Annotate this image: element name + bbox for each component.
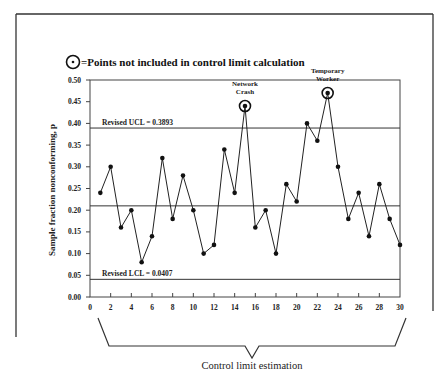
ucl-label: Revised UCL = 0.3893 bbox=[102, 118, 173, 127]
bracket-label: Control limit estimation bbox=[202, 360, 304, 371]
x-tick-label: 30 bbox=[396, 303, 404, 312]
annotation-text: Network bbox=[232, 80, 258, 88]
data-point bbox=[181, 173, 186, 178]
x-tick-label: 28 bbox=[376, 303, 384, 312]
data-point bbox=[222, 147, 227, 152]
data-point bbox=[336, 165, 341, 170]
data-point bbox=[201, 251, 206, 256]
data-point bbox=[284, 182, 289, 187]
y-tick-label: 0.45 bbox=[68, 97, 81, 106]
x-ticks: 024681012141618202224262830 bbox=[88, 293, 404, 312]
legend-text: =Points not included in control limit ca… bbox=[81, 56, 305, 68]
data-point bbox=[119, 225, 124, 230]
data-point bbox=[160, 156, 165, 161]
x-tick-label: 12 bbox=[210, 303, 218, 312]
y-tick-label: 0.10 bbox=[68, 249, 81, 258]
data-point bbox=[367, 234, 372, 239]
annotation-text: Temporary bbox=[311, 67, 345, 75]
data-point bbox=[315, 138, 320, 143]
data-point bbox=[150, 234, 155, 239]
x-tick-label: 20 bbox=[293, 303, 301, 312]
y-tick-label: 0.20 bbox=[68, 206, 81, 215]
data-point bbox=[108, 165, 113, 170]
x-tick-label: 2 bbox=[109, 303, 113, 312]
legend-dot-icon bbox=[72, 61, 75, 64]
data-point bbox=[263, 208, 268, 213]
x-tick-label: 18 bbox=[272, 303, 280, 312]
y-tick-label: 0.00 bbox=[68, 293, 81, 302]
x-tick-label: 4 bbox=[129, 303, 133, 312]
control-chart: =Points not included in control limit ca… bbox=[0, 0, 446, 384]
plot-area bbox=[90, 80, 400, 297]
bracket bbox=[98, 318, 406, 358]
data-point bbox=[232, 191, 237, 196]
series-p bbox=[98, 88, 402, 265]
x-tick-label: 10 bbox=[190, 303, 198, 312]
data-point bbox=[294, 199, 299, 204]
data-point bbox=[129, 208, 134, 213]
data-point bbox=[243, 104, 248, 109]
data-point bbox=[325, 91, 330, 96]
data-point bbox=[346, 217, 351, 222]
x-tick-label: 24 bbox=[334, 303, 342, 312]
data-point bbox=[170, 217, 175, 222]
x-tick-label: 6 bbox=[150, 303, 154, 312]
data-point bbox=[274, 251, 279, 256]
annotation-text: Worker bbox=[316, 75, 339, 83]
y-tick-label: 0.40 bbox=[68, 119, 81, 128]
y-tick-label: 0.05 bbox=[68, 271, 81, 280]
data-point bbox=[387, 217, 392, 222]
x-tick-label: 14 bbox=[231, 303, 239, 312]
x-tick-label: 8 bbox=[171, 303, 175, 312]
y-tick-label: 0.30 bbox=[68, 162, 81, 171]
reference-lines: Revised UCL = 0.3893Revised LCL = 0.0407 bbox=[90, 118, 400, 279]
x-tick-label: 16 bbox=[252, 303, 260, 312]
annotation-text: Crash bbox=[236, 88, 254, 96]
y-tick-label: 0.25 bbox=[68, 184, 81, 193]
x-tick-label: 22 bbox=[314, 303, 322, 312]
y-tick-label: 0.15 bbox=[68, 227, 81, 236]
data-point bbox=[305, 121, 310, 126]
y-ticks: 0.000.050.100.150.200.250.300.350.400.45… bbox=[68, 76, 90, 302]
y-tick-label: 0.35 bbox=[68, 141, 81, 150]
data-point bbox=[191, 208, 196, 213]
data-point bbox=[356, 191, 361, 196]
x-tick-label: 26 bbox=[355, 303, 363, 312]
data-point bbox=[98, 191, 103, 196]
x-tick-label: 0 bbox=[88, 303, 92, 312]
data-point bbox=[139, 260, 144, 265]
y-axis-label: Sample fraction nonconforming, p bbox=[47, 124, 57, 256]
legend: =Points not included in control limit ca… bbox=[67, 56, 305, 69]
data-point bbox=[398, 243, 403, 248]
y-tick-label: 0.50 bbox=[68, 76, 81, 85]
lcl-label: Revised LCL = 0.0407 bbox=[102, 269, 173, 278]
data-point bbox=[212, 243, 217, 248]
data-point bbox=[253, 225, 258, 230]
data-point bbox=[377, 182, 382, 187]
